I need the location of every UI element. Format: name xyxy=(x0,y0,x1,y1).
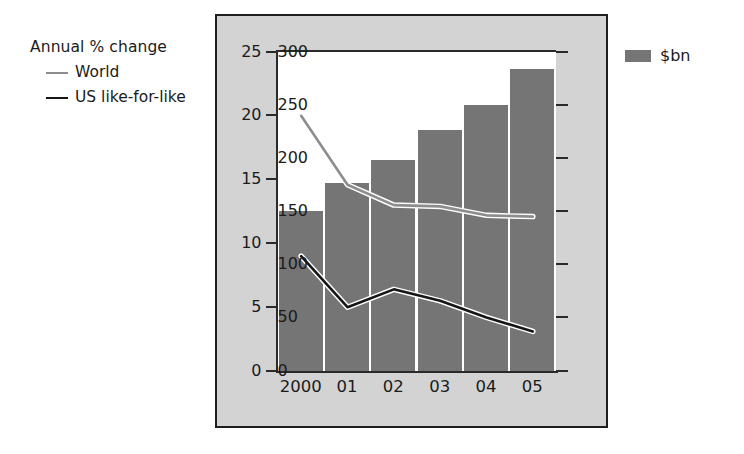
right-legend-label: $bn xyxy=(660,48,690,64)
y-tick-label-left-5: 5 xyxy=(220,299,262,315)
line-swatch-black-icon xyxy=(46,97,68,99)
line-world xyxy=(301,115,533,216)
y-tick-label-right-100: 100 xyxy=(278,256,324,272)
y-tick-right-150 xyxy=(556,210,568,212)
x-tick-label-05: 05 xyxy=(522,377,543,396)
y-tick-label-right-150: 150 xyxy=(278,203,324,219)
y-tick-left-5 xyxy=(266,306,278,308)
left-legend: Annual % change World US like-for-like xyxy=(30,38,215,107)
bar-swatch-gray-icon xyxy=(625,50,651,62)
legend-item-us-like-for-like-label: US like-for-like xyxy=(75,88,186,107)
chart-figure: Annual % change World US like-for-like 0… xyxy=(0,0,744,454)
y-tick-label-right-250: 250 xyxy=(278,97,324,113)
y-tick-label-right-200: 200 xyxy=(278,150,324,166)
y-tick-label-right-300: 300 xyxy=(278,44,324,60)
y-tick-label-right-50: 50 xyxy=(278,309,324,325)
x-tick-label-03: 03 xyxy=(429,377,450,396)
y-tick-right-250 xyxy=(556,104,568,106)
y-tick-label-left-15: 15 xyxy=(220,171,262,187)
line-swatch-gray-icon xyxy=(46,72,68,74)
y-tick-right-200 xyxy=(556,157,568,159)
y-tick-left-10 xyxy=(266,242,278,244)
x-axis-labels: 20000102030405 xyxy=(278,377,556,401)
x-tick-label-01: 01 xyxy=(337,377,358,396)
right-legend: $bn xyxy=(625,48,690,64)
plot-area: 0510152025 050100150200250300 2000010203… xyxy=(278,52,556,371)
y-tick-right-50 xyxy=(556,316,568,318)
legend-item-us-like-for-like: US like-for-like xyxy=(30,88,215,107)
line-us-like-for-like xyxy=(301,256,533,331)
y-tick-right-0 xyxy=(556,370,568,372)
y-tick-left-0 xyxy=(266,370,278,372)
x-tick-label-02: 02 xyxy=(383,377,404,396)
y-tick-label-left-20: 20 xyxy=(220,107,262,123)
x-tick-label-2000: 2000 xyxy=(280,377,322,396)
x-tick-label-04: 04 xyxy=(476,377,497,396)
legend-item-world: World xyxy=(30,63,215,82)
y-tick-left-20 xyxy=(266,114,278,116)
y-tick-label-left-0: 0 xyxy=(220,363,262,379)
y-tick-right-300 xyxy=(556,51,568,53)
y-tick-label-left-10: 10 xyxy=(220,235,262,251)
chart-panel: 0510152025 050100150200250300 2000010203… xyxy=(215,14,608,428)
y-tick-left-25 xyxy=(266,51,278,53)
y-tick-left-15 xyxy=(266,178,278,180)
y-tick-label-left-25: 25 xyxy=(220,44,262,60)
legend-item-world-label: World xyxy=(75,63,119,82)
left-legend-title: Annual % change xyxy=(30,38,215,57)
y-tick-right-100 xyxy=(556,263,568,265)
